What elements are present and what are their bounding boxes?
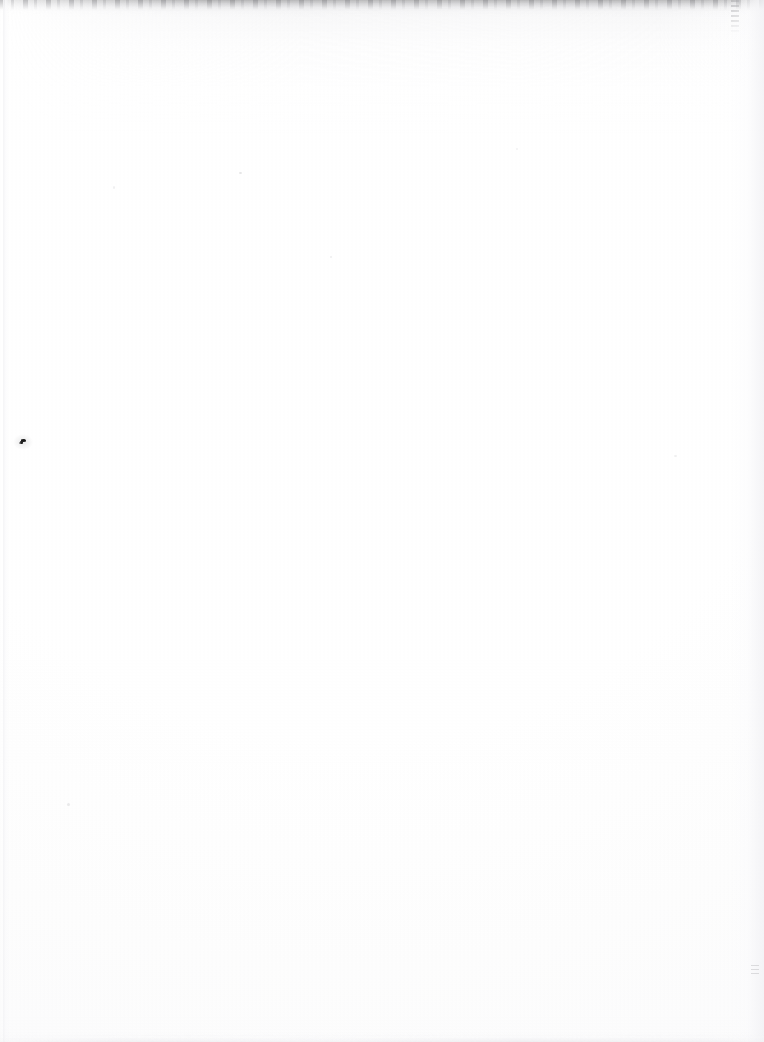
dust-mote <box>239 172 242 174</box>
ink-speck-blob-tail <box>19 442 21 444</box>
scanned-page <box>0 0 764 1042</box>
paper-grain-texture <box>0 0 764 1042</box>
top-edge-smudge-mottle <box>0 0 764 10</box>
ink-speck <box>19 439 26 445</box>
dust-mote <box>330 256 332 258</box>
dust-mote <box>674 455 677 457</box>
left-page-edge <box>3 0 9 1042</box>
dust-mote <box>516 148 518 150</box>
top-edge-haze <box>0 2 764 134</box>
dust-mote <box>67 803 70 806</box>
bottom-page-edge <box>0 1032 764 1042</box>
right-page-edge-shadow <box>730 0 764 1042</box>
dust-mote <box>113 186 115 189</box>
faint-gray-speck <box>751 965 759 977</box>
